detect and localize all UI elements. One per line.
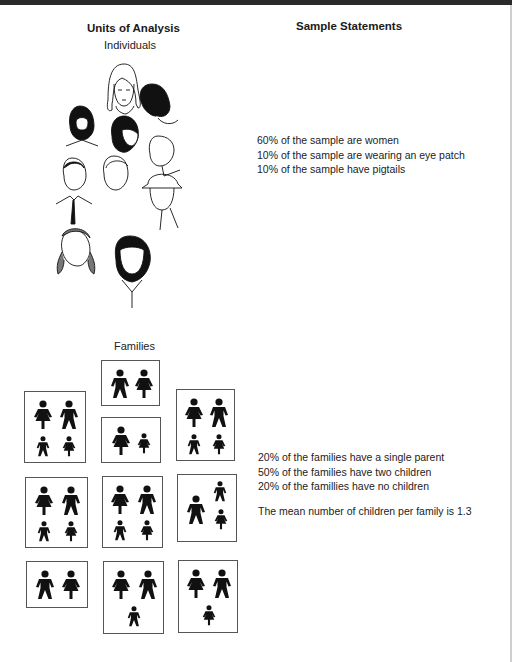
girl-icon	[212, 434, 226, 455]
man-icon	[61, 486, 81, 516]
top-border	[0, 0, 512, 5]
woman-icon	[184, 398, 204, 428]
man-icon	[212, 569, 232, 599]
family-box	[101, 417, 161, 463]
face-icon	[57, 229, 95, 274]
girl-icon	[214, 509, 228, 530]
family-box	[103, 561, 164, 634]
family-box	[102, 476, 163, 548]
individuals-statements: 60% of the sample are women 10% of the s…	[257, 133, 465, 177]
girl-icon	[137, 433, 151, 454]
man-icon	[137, 485, 157, 515]
man-icon	[138, 570, 158, 600]
family-box	[101, 360, 160, 406]
man-icon	[59, 400, 79, 430]
boy-icon	[37, 521, 51, 542]
boy-icon	[187, 434, 201, 455]
family-box	[26, 561, 88, 608]
boy-icon	[113, 520, 127, 541]
face-icon	[103, 156, 128, 190]
statement: 20% of the famillies have no children	[258, 479, 472, 494]
families-statements: 20% of the families have a single parent…	[258, 450, 472, 518]
individuals-label: Individuals	[104, 39, 156, 51]
face-icon	[66, 106, 98, 146]
face-icon	[140, 84, 178, 124]
statement: 10% of the sample have pigtails	[257, 162, 465, 177]
girl-icon	[62, 436, 76, 457]
family-box	[178, 560, 238, 633]
family-box	[25, 477, 88, 548]
girl-icon	[64, 521, 78, 542]
woman-icon	[186, 569, 206, 599]
mean-statement: The mean number of children per family i…	[258, 504, 472, 519]
families-label: Families	[114, 340, 155, 352]
woman-icon	[61, 570, 81, 600]
face-icon	[112, 116, 139, 152]
family-box	[177, 474, 237, 542]
family-box	[176, 389, 235, 461]
woman-icon	[34, 486, 54, 516]
woman-icon	[111, 570, 131, 600]
girl-icon	[202, 605, 216, 626]
statement: 20% of the families have a single parent	[258, 450, 472, 465]
boy-icon	[127, 606, 141, 627]
face-icon	[107, 64, 140, 114]
face-icon	[56, 158, 92, 224]
statement: 60% of the sample are women	[257, 133, 465, 148]
statement: 50% of the families have two children	[258, 465, 472, 480]
man-icon	[110, 369, 130, 399]
sample-statements-heading: Sample Statements	[296, 20, 402, 32]
woman-icon	[111, 426, 131, 456]
girl-icon	[140, 520, 154, 541]
woman-icon	[110, 485, 130, 515]
statement: 10% of the sample are wearing an eye pat…	[257, 148, 465, 163]
face-icon	[149, 136, 180, 176]
boy-icon	[213, 481, 227, 502]
units-of-analysis-heading: Units of Analysis	[87, 22, 180, 34]
man-icon	[186, 495, 206, 525]
individuals-illustration	[52, 60, 202, 310]
family-box	[24, 391, 86, 463]
face-icon	[115, 236, 150, 308]
woman-icon	[33, 400, 53, 430]
face-icon	[142, 174, 182, 230]
woman-icon	[134, 369, 154, 399]
man-icon	[35, 570, 55, 600]
man-icon	[209, 398, 229, 428]
boy-icon	[36, 436, 50, 457]
